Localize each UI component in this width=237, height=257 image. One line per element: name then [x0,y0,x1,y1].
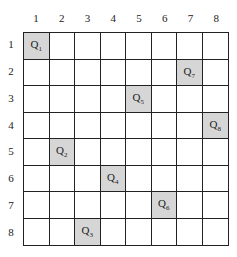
column-label: 5 [126,12,152,24]
row-label: 2 [6,65,16,77]
board-cell [24,166,50,193]
queen-label: Q1 [31,38,42,53]
queen-label: Q6 [158,197,169,212]
board-cell [24,113,50,140]
board-cell [126,166,152,193]
queen-cell: Q8 [203,113,229,140]
board-cell [50,166,76,193]
queen-label: Q7 [184,65,195,80]
queen-label: Q2 [56,144,67,159]
board-cell [177,86,203,113]
column-label: 1 [23,12,49,24]
board-cell [203,33,229,60]
board-cell [101,192,127,219]
board-cell [152,113,178,140]
board-cell [24,60,50,87]
row-label: 3 [6,92,16,104]
board-cell [101,86,127,113]
row-label: 4 [6,119,16,131]
board-cell [126,33,152,60]
board-cell [75,86,101,113]
board-cell [24,86,50,113]
board-cell [177,219,203,246]
board-cell [50,113,76,140]
board-cell [101,60,127,87]
column-label: 7 [178,12,204,24]
board-cell [75,139,101,166]
column-label: 2 [49,12,75,24]
queen-label: Q4 [107,171,118,186]
board-cell [126,192,152,219]
board-cell [50,60,76,87]
board-cell [75,113,101,140]
board-cell [177,139,203,166]
queen-label: Q8 [210,118,221,133]
board-cell [203,192,229,219]
row-label: 5 [6,145,16,157]
board-cell [203,166,229,193]
column-label: 4 [100,12,126,24]
board-cell [101,113,127,140]
board-cell [203,139,229,166]
column-label: 3 [75,12,101,24]
board-cell [75,192,101,219]
column-label: 6 [152,12,178,24]
column-label: 8 [203,12,229,24]
board-cell [24,192,50,219]
queen-cell: Q1 [24,33,50,60]
queen-cell: Q5 [126,86,152,113]
chess-board-grid: Q1Q7Q5Q8Q2Q4Q6Q3 [23,32,229,246]
board-cell [126,219,152,246]
row-label: 6 [6,172,16,184]
board-cell [75,60,101,87]
board-cell [75,33,101,60]
board-cell [152,33,178,60]
board-cell [24,139,50,166]
queen-label: Q5 [133,91,144,106]
queen-label: Q3 [82,224,93,239]
board-cell [177,113,203,140]
board-cell [50,33,76,60]
board-cell [177,33,203,60]
queen-cell: Q7 [177,60,203,87]
board-cell [75,166,101,193]
board-cell [152,86,178,113]
board-cell [50,192,76,219]
board-cell [126,113,152,140]
queen-cell: Q4 [101,166,127,193]
board-cell [203,86,229,113]
queen-cell: Q2 [50,139,76,166]
board-cell [152,60,178,87]
board-cell [101,33,127,60]
queen-cell: Q6 [152,192,178,219]
board-cell [203,60,229,87]
board-cell [50,219,76,246]
board-cell [101,139,127,166]
board-cell [203,219,229,246]
board-cell [177,192,203,219]
board-cell [126,60,152,87]
board-cell [177,166,203,193]
board-cell [126,139,152,166]
board-cell [50,86,76,113]
board-cell [152,166,178,193]
board-cell [101,219,127,246]
board-cell [24,219,50,246]
board-cell [152,139,178,166]
row-label: 1 [6,38,16,50]
board-cell [152,219,178,246]
row-label: 8 [6,226,16,238]
queen-cell: Q3 [75,219,101,246]
row-label: 7 [6,199,16,211]
